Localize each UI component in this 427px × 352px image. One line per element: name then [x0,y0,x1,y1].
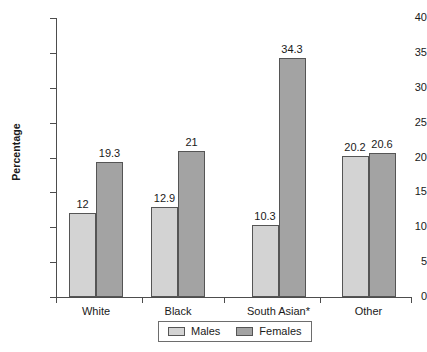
x-tick-mark [224,297,225,303]
y-tick-mark [50,53,56,54]
x-tick-mark [142,297,143,303]
y-tick-label: 40 [381,12,427,23]
bar-males-other [342,156,369,297]
x-tick-mark [411,297,412,303]
x-tick-mark [56,297,57,303]
y-tick-mark [50,262,56,263]
legend-item-females[interactable]: Females [236,326,301,337]
y-tick-label: 30 [381,82,427,93]
bar-value-label: 21 [172,136,211,148]
bar-females-white [96,162,123,297]
y-tick-mark [50,158,56,159]
y-tick-mark [50,123,56,124]
y-tick-mark [50,18,56,19]
bar-females-southasian [279,58,306,297]
bar-males-black [151,207,178,297]
x-category-label-other: Other [319,305,419,318]
bar-males-white [69,213,96,297]
y-tick-label: 25 [381,117,427,128]
y-tick-label: 35 [381,47,427,58]
legend-swatch-males-icon [168,327,185,336]
bar-females-other [369,153,396,297]
bar-value-label: 19.3 [90,147,129,159]
legend-swatch-females-icon [236,327,253,336]
y-tick-mark [50,227,56,228]
bar-value-label: 34.3 [273,43,312,55]
x-axis-line [56,297,411,298]
y-axis-line [56,18,57,297]
bar-chart: Percentage 0510152025303540 1219.312.921… [0,0,427,352]
y-tick-mark [50,88,56,89]
bar-value-label: 20.6 [363,138,402,150]
bar-males-southasian [252,225,279,297]
y-tick-mark [50,192,56,193]
chart-legend: Males Females [158,321,312,342]
legend-item-males[interactable]: Males [168,326,220,337]
bar-females-black [178,151,205,297]
x-category-label-black: Black [128,305,228,318]
x-category-label-southasian: South Asian* [229,305,329,318]
legend-label-females: Females [259,326,301,337]
legend-label-males: Males [191,326,220,337]
x-tick-mark [320,297,321,303]
y-axis-title: Percentage [10,112,22,192]
